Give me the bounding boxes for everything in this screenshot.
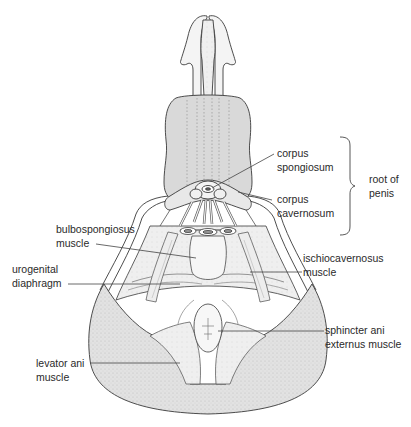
label-levator-ani-muscle: levator ani muscle (36, 357, 84, 384)
label-bulbospongiosus-muscle: bulbospongiosus muscle (56, 223, 135, 250)
glans-penis (180, 16, 235, 96)
label-corpus-cavernosum: corpus cavernosum (277, 193, 334, 220)
label-urogenital-diaphragm: urogenital diaphragm (12, 263, 62, 290)
label-corpus-spongiosum: corpus spongiosum (277, 147, 334, 174)
label-sphincter-ani-externus-muscle: sphincter ani externus muscle (325, 324, 401, 351)
crura-cross-sections (180, 228, 236, 236)
root-of-penis-brace (340, 137, 355, 235)
anatomy-diagram: corpus spongiosum corpus cavernosum root… (0, 0, 411, 427)
label-root-of-penis: root of penis (369, 173, 399, 200)
label-ischiocavernosus-muscle: ischiocavernosus muscle (303, 252, 384, 279)
